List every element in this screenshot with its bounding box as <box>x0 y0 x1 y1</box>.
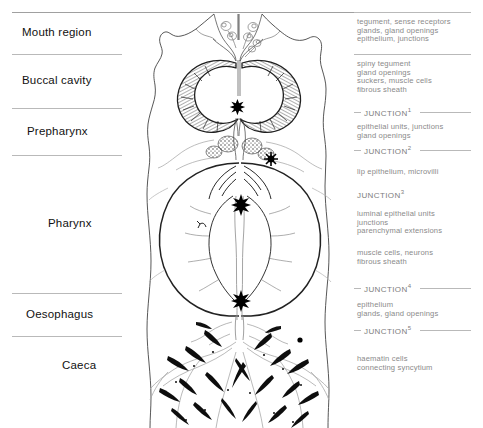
region-label-buccal-cavity: Buccal cavity <box>22 74 92 86</box>
annotation-oesophagus: epithelium glands, gland openings <box>357 301 438 318</box>
junction-5-text: JUNCTION <box>364 327 408 336</box>
rule-anno-mouth-buccal <box>354 54 471 55</box>
rule-buccal-prepharynx <box>12 108 122 109</box>
junction-label-4: JUNCTION4 <box>364 283 411 294</box>
annotation-muscle-cells: muscle cells, neurons fibrous sheath <box>357 249 433 266</box>
buccal-suckers <box>177 60 300 136</box>
region-label-caeca: Caeca <box>62 359 96 371</box>
rule-anno-top <box>354 12 471 13</box>
annotation-luminal-units: luminal epithelial units junctions paren… <box>357 210 442 236</box>
junction-2-marker <box>264 152 278 166</box>
annotation-mouth: tegument, sense receptors glands, gland … <box>357 18 451 44</box>
junction-label-3: JUNCTION3 <box>357 189 404 200</box>
mouth-region-drawing <box>196 14 280 61</box>
annotation-caeca: haematin cells connecting syncytium <box>357 355 433 372</box>
rule-junction-4-left <box>354 288 361 289</box>
annotation-lip-epithelium: lip epithelium, microvilli <box>357 168 439 177</box>
junction-1-text: JUNCTION <box>364 109 408 118</box>
rule-junction-5-left <box>354 330 361 331</box>
junction-1-superscript: 1 <box>408 107 412 113</box>
rule-prepharynx-pharynx <box>12 155 122 156</box>
region-label-oesophagus: Oesophagus <box>26 308 93 320</box>
region-label-mouth-region: Mouth region <box>22 26 92 38</box>
rule-junction-1-left <box>354 112 361 113</box>
junction-2-text: JUNCTION <box>364 147 408 156</box>
rule-mouth-buccal <box>12 54 122 55</box>
caeca-drawing <box>150 330 329 428</box>
rule-junction-1-right <box>420 112 471 113</box>
prepharynx-drawing <box>158 120 322 172</box>
junction-3-marker <box>231 194 251 216</box>
rule-junction-2-left <box>354 150 361 151</box>
region-label-pharynx: Pharynx <box>48 217 92 229</box>
junction-1-marker <box>230 99 245 115</box>
rule-junction-4-right <box>420 288 471 289</box>
junction-5-marker <box>297 337 302 342</box>
rule-pharynx-oesophagus <box>12 293 122 294</box>
junction-3-text: JUNCTION <box>357 191 401 200</box>
annotation-buccal: spiny tegument gland openings suckers, m… <box>357 60 432 94</box>
junction-label-1: JUNCTION1 <box>364 107 411 118</box>
junction-4-text: JUNCTION <box>364 285 408 294</box>
junction-4-marker <box>231 290 251 312</box>
junction-label-2: JUNCTION2 <box>364 145 411 156</box>
rule-oesophagus-caeca <box>12 336 122 337</box>
junction-2-superscript: 2 <box>408 145 412 151</box>
junction-label-5: JUNCTION5 <box>364 325 411 336</box>
annotation-prepharynx: epithelial units, junctions gland openin… <box>357 123 443 140</box>
rule-junction-2-right <box>420 150 471 151</box>
junction-3-superscript: 3 <box>401 189 405 195</box>
anatomical-figure: Mouth region Buccal cavity Prepharynx Ph… <box>0 0 483 428</box>
junction-5-superscript: 5 <box>408 325 412 331</box>
junction-4-superscript: 4 <box>408 283 412 289</box>
rule-junction-5-right <box>420 330 471 331</box>
region-label-prepharynx: Prepharynx <box>27 125 88 137</box>
